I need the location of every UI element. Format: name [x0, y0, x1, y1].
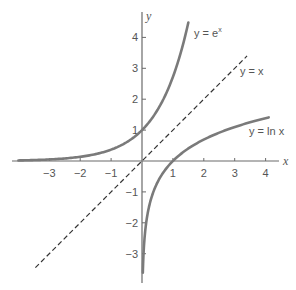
y-tick-label: 2	[132, 93, 138, 105]
label-exp: y = ex	[194, 26, 222, 39]
y-axis-label: y	[145, 9, 152, 23]
function-graph: x y −3−2−11234−3−2−11234 y = ex y = x y …	[0, 0, 296, 290]
x-tick-label: 4	[263, 167, 269, 179]
x-tick-label: 2	[201, 167, 207, 179]
label-identity: y = x	[240, 65, 264, 77]
x-tick-label: −2	[74, 167, 87, 179]
x-tick-label: −3	[43, 167, 56, 179]
y-tick-label: −1	[125, 186, 138, 198]
y-tick-label: −3	[125, 248, 138, 260]
x-tick-label: 3	[232, 167, 238, 179]
axes: x y	[12, 9, 289, 283]
x-tick-label: −1	[105, 167, 118, 179]
curves	[18, 23, 268, 273]
label-exp-sup: x	[218, 26, 222, 33]
y-tick-label: 3	[132, 62, 138, 74]
curve-labels: y = ex y = x y = ln x	[194, 26, 285, 137]
curve-identity-dashed	[35, 56, 247, 268]
y-tick-label: −2	[125, 217, 138, 229]
y-tick-label: 4	[132, 31, 138, 43]
label-exp-main: y = e	[194, 27, 218, 39]
x-tick-label: 1	[170, 167, 176, 179]
label-ln: y = ln x	[249, 125, 285, 137]
x-axis-label: x	[282, 154, 289, 168]
